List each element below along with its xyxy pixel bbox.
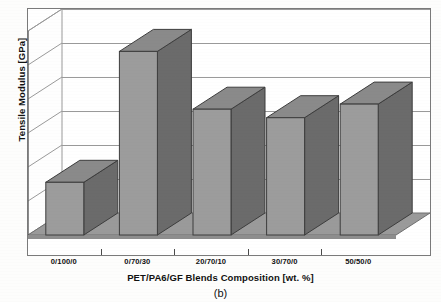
x-tick-mark — [321, 249, 322, 255]
figure-panel: 0123456 0/100/00/70/3020/70/1030/70/050/… — [0, 0, 441, 302]
x-tick-label: 0/70/30 — [124, 257, 150, 266]
bar-column — [28, 9, 431, 256]
x-tick-label: 50/50/0 — [345, 257, 371, 266]
figure-caption: (b) — [0, 287, 441, 299]
x-tick-label: 20/70/10 — [196, 257, 226, 266]
y-tick-mark — [27, 65, 28, 66]
bar-front-face — [340, 104, 378, 235]
y-axis-title: Tensile Modulus [GPa] — [16, 25, 27, 155]
x-tick-mark — [101, 249, 102, 255]
y-tick-mark — [27, 133, 28, 134]
x-tick-label: 30/70/0 — [272, 257, 298, 266]
x-tick-mark — [248, 249, 249, 255]
x-axis-title: PET/PA6/GF Blends Composition [wt. %] — [0, 272, 441, 283]
y-tick-mark — [27, 167, 28, 168]
y-tick-mark — [27, 201, 28, 202]
chart-plot-area: 0123456 — [27, 8, 431, 256]
bars-layer — [28, 9, 431, 256]
y-tick-mark — [27, 31, 28, 32]
y-tick-mark — [27, 235, 28, 236]
x-tick-label: 0/100/0 — [51, 257, 77, 266]
bar-side-face — [378, 82, 412, 235]
x-tick-mark — [174, 249, 175, 255]
y-tick-mark — [27, 99, 28, 100]
